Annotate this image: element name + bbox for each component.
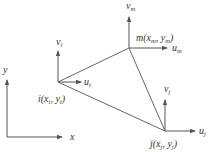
triangle-element-diagram: y x vi ui i(xi, yi) vm um m(xm, ym) vj u… [0, 0, 209, 152]
triangle-edges [58, 48, 165, 131]
edge-i-j [58, 82, 165, 131]
x-axis-label: x [69, 131, 75, 142]
u-i-label: ui [84, 76, 91, 88]
edge-m-j [129, 48, 165, 131]
v-m-label: vm [126, 0, 135, 12]
v-j-label: vj [164, 83, 170, 95]
u-m-label: um [172, 42, 182, 54]
node-m: vm um m(xm, ym) [126, 0, 182, 54]
v-i-label: vi [56, 36, 62, 48]
node-j-coords: j(xj, yj) [148, 138, 178, 150]
u-j-label: uj [199, 125, 206, 137]
node-m-coords: m(xm, ym) [136, 32, 174, 44]
y-axis-label: y [2, 64, 8, 75]
node-i-coords: i(xi, yi) [38, 93, 66, 105]
node-j: vj uj j(xj, yj) [148, 83, 206, 150]
edge-i-m [58, 48, 129, 82]
